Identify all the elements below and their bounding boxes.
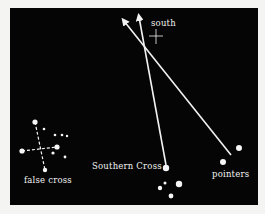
south-pole-marker-icon bbox=[149, 29, 163, 44]
false-cross-lines bbox=[22, 122, 57, 170]
pointers-bisector-arrow bbox=[124, 21, 231, 155]
southern-cross-label: Southern Cross bbox=[92, 161, 162, 171]
south-label: south bbox=[151, 18, 176, 28]
false-cross-label: false cross bbox=[24, 175, 72, 185]
southern-cross-axis-arrow bbox=[139, 17, 166, 165]
pointers-label: pointers bbox=[212, 169, 249, 179]
false-cross-stars bbox=[19, 119, 68, 172]
